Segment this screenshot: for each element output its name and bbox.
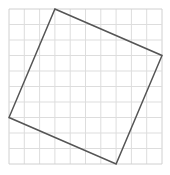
tilted-square-diagram bbox=[0, 0, 170, 175]
grid bbox=[9, 9, 162, 164]
